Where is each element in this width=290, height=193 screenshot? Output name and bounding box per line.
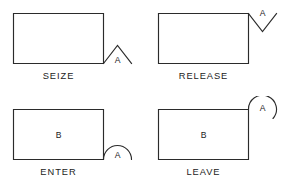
seize-marker-label: A bbox=[115, 55, 121, 65]
release-marker-label: A bbox=[260, 8, 266, 18]
leave-inner-label: B bbox=[201, 130, 207, 140]
figure-leave: B A LEAVE bbox=[145, 96, 290, 193]
enter-inner-label: B bbox=[56, 130, 62, 140]
figure-enter: B A ENTER bbox=[0, 96, 145, 193]
release-caption: RELEASE bbox=[179, 71, 229, 81]
figure-release: A RELEASE bbox=[145, 0, 290, 96]
block-notation-diagram: A SEIZE A RELEASE B A ENTER B A bbox=[0, 0, 290, 193]
leave-marker-label: A bbox=[260, 103, 266, 113]
leave-caption: LEAVE bbox=[186, 167, 220, 177]
enter-caption: ENTER bbox=[40, 167, 76, 177]
release-rectangle bbox=[159, 14, 249, 64]
seize-caption: SEIZE bbox=[43, 71, 75, 81]
enter-marker-label: A bbox=[115, 150, 121, 160]
figure-seize: A SEIZE bbox=[0, 0, 145, 96]
seize-rectangle bbox=[14, 14, 104, 64]
